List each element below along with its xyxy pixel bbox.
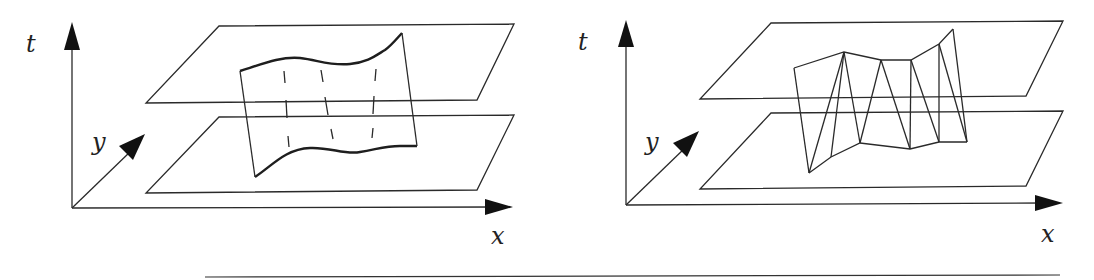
- y-axis: [72, 150, 132, 208]
- bottom-rule-divider: [205, 275, 1060, 277]
- sheet-right-edge: [402, 33, 417, 146]
- y-axis-label: y: [644, 128, 659, 156]
- x-axis: [626, 203, 1044, 205]
- t-axis-arrow-icon: [64, 22, 80, 50]
- x-axis-arrow-icon: [485, 199, 513, 215]
- x-axis-label: x: [491, 222, 505, 250]
- triangulated-strip: [794, 29, 967, 173]
- t-axis-label: t: [26, 30, 36, 58]
- strip-top-edge: [794, 29, 953, 68]
- lower-plane: [146, 115, 514, 193]
- y-axis-arrow-icon: [673, 131, 699, 157]
- sheet-top-edge: [240, 33, 402, 71]
- right-panel: t y x: [578, 20, 1063, 248]
- y-axis-arrow-icon: [119, 134, 145, 160]
- sheet-left-edge: [240, 71, 255, 177]
- left-panel: t y x: [26, 22, 514, 250]
- figure-canvas: t y x: [0, 0, 1094, 280]
- x-axis-label: x: [1041, 220, 1055, 248]
- t-axis-label: t: [578, 28, 588, 56]
- x-axis-arrow-icon: [1035, 195, 1063, 211]
- x-axis: [72, 207, 494, 208]
- t-axis-arrow-icon: [618, 20, 634, 47]
- smooth-sheet: [240, 33, 417, 177]
- sheet-dashed-lines: [284, 69, 376, 147]
- lower-plane: [700, 111, 1063, 189]
- y-axis-label: y: [91, 128, 106, 156]
- strip-triangulation-edges: [794, 29, 967, 173]
- sheet-bottom-edge: [255, 146, 417, 177]
